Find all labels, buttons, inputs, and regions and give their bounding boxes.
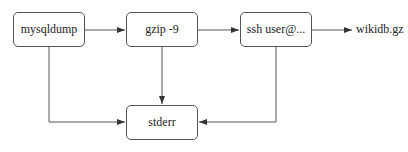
node-label: stderr (148, 115, 175, 130)
edge-ssh-stderr (199, 47, 276, 122)
node-gzip: gzip -9 (126, 12, 198, 47)
node-stderr: stderr (126, 105, 198, 140)
node-label: mysqldump (21, 22, 78, 37)
edge-mysqldump-stderr (49, 47, 125, 122)
node-label: gzip -9 (145, 22, 179, 37)
output-file-label: wikidb.gz (356, 22, 404, 37)
node-ssh: ssh user@... (240, 12, 312, 47)
node-label: ssh user@... (247, 22, 305, 37)
pipeline-diagram: mysqldump gzip -9 ssh user@... stderr wi… (0, 0, 408, 152)
node-mysqldump: mysqldump (13, 12, 85, 47)
